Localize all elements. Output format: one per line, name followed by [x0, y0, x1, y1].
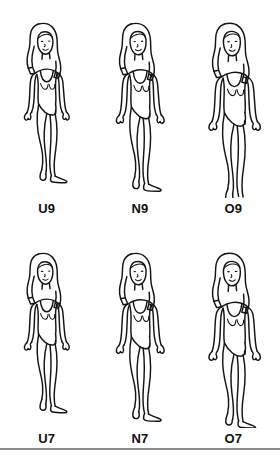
figure-rating-sheet: U9 — [0, 0, 280, 458]
figure-cell-n7[interactable]: N7 — [93, 238, 186, 446]
body-figure-full-illustration — [187, 243, 280, 428]
figure-row-bottom: U7 — [0, 238, 280, 446]
figure-label: U9 — [38, 201, 55, 216]
figure-cell-u7[interactable]: U7 — [0, 238, 93, 446]
body-figure-average-illustration — [93, 13, 186, 198]
figure-label: U7 — [38, 431, 55, 446]
body-figure-average-illustration — [93, 243, 186, 428]
figure-row-top: U9 — [0, 4, 280, 216]
body-figure-slim-illustration — [0, 13, 93, 198]
figure-label: O7 — [224, 431, 242, 446]
figure-label: N9 — [131, 201, 148, 216]
figure-label: N7 — [131, 431, 148, 446]
figure-label: O9 — [224, 201, 242, 216]
figure-cell-o9[interactable]: O9 — [187, 4, 280, 216]
figure-cell-u9[interactable]: U9 — [0, 4, 93, 216]
bottom-divider — [0, 448, 280, 450]
figure-cell-o7[interactable]: O7 — [187, 238, 280, 446]
figure-cell-n9[interactable]: N9 — [93, 4, 186, 216]
body-figure-full-illustration — [187, 13, 280, 198]
body-figure-slim-illustration — [0, 243, 93, 428]
